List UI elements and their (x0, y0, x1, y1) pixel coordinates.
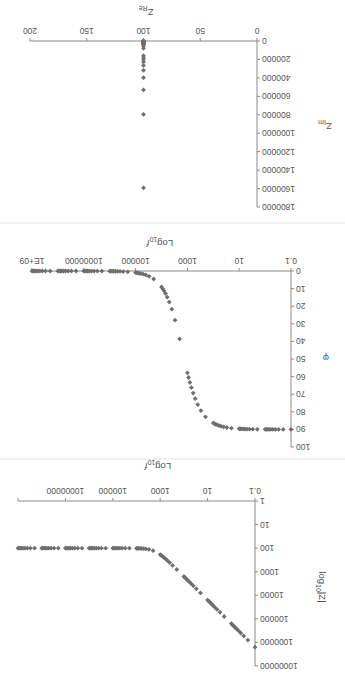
y-tick-label: 1000 (260, 567, 279, 577)
data-point-marker (141, 88, 146, 93)
data-point-marker (32, 546, 37, 551)
y-tick-label: 100 (260, 543, 274, 553)
x-tick-label: 1E+09 (19, 256, 44, 266)
data-point-marker (141, 68, 146, 73)
data-point-marker (100, 269, 105, 274)
data-point-marker (241, 634, 246, 639)
x-tick-label: 100000 (121, 256, 150, 266)
data-point-marker (193, 396, 198, 401)
y-tick-label: 100 (296, 442, 310, 452)
x-tick-label: 10000000 (46, 486, 84, 496)
y-tick-label: 800000 (262, 110, 291, 120)
y-tick-label: 80 (296, 407, 306, 417)
data-point-marker (186, 375, 191, 380)
y-tick-label: 1 (260, 496, 265, 506)
data-point-marker (48, 269, 53, 274)
nyquist-chart: 0501001502000200000400000600000800000100… (23, 5, 332, 212)
data-point-marker (229, 426, 234, 431)
y-tick-label: 600000 (262, 91, 291, 101)
y-tick-label: 1000000 (260, 637, 293, 647)
y-tick-label: 30 (296, 319, 306, 329)
y-tick-label: 70 (296, 389, 306, 399)
nyquist-axes: 0501001502000200000400000600000800000100… (23, 26, 295, 212)
x-tick-label: 0.1 (285, 256, 297, 266)
y-tick-label: 10 (296, 284, 306, 294)
y-tick-label: 20 (296, 301, 306, 311)
x-tick-label: 10000000 (65, 256, 103, 266)
y-tick-label: 1600000 (262, 184, 295, 194)
magnitude-data-points (16, 546, 258, 650)
x-tick-label: 1000 (150, 486, 169, 496)
data-point-marker (127, 546, 132, 551)
y-tick-label: 1000000 (262, 128, 295, 138)
data-point-marker (203, 414, 208, 419)
magnitude-y-axis-label: log10|Z| (315, 571, 328, 602)
data-point-marker (141, 75, 146, 80)
y-tick-label: 200000 (262, 54, 291, 64)
y-tick-label: 90 (296, 424, 306, 434)
data-point-marker (255, 427, 260, 432)
x-tick-label: 150 (79, 26, 93, 36)
data-point-marker (170, 563, 175, 568)
data-point-marker (185, 370, 190, 375)
data-point-marker (151, 548, 156, 553)
data-point-marker (125, 269, 130, 274)
data-point-marker (281, 427, 286, 432)
y-tick-label: 1800000 (262, 202, 295, 212)
data-point-marker (188, 380, 193, 385)
data-point-marker (151, 277, 156, 282)
data-point-marker (218, 610, 223, 615)
phase-axes: 0.1101000100000100000001E+09010203040506… (19, 256, 310, 452)
magnitude-x-axis-label: Log10f (143, 459, 171, 472)
phase-y-axis-label: φ (323, 353, 329, 364)
y-tick-label: 10 (260, 520, 270, 530)
y-tick-label: 0 (296, 266, 301, 276)
y-tick-label: 10000 (260, 590, 284, 600)
data-point-marker (253, 645, 258, 650)
data-point-marker (198, 591, 203, 596)
data-point-marker (141, 112, 146, 117)
x-tick-label: 10 (234, 256, 244, 266)
data-point-marker (167, 300, 172, 305)
phase-chart: 0.1101000100000100000001E+09010203040506… (19, 236, 329, 452)
y-tick-label: 10000000 (260, 661, 298, 671)
data-point-marker (289, 427, 294, 432)
nyquist-x-axis-label: ZRe (139, 5, 154, 18)
data-point-marker (194, 586, 199, 591)
data-point-marker (189, 385, 194, 390)
nyquist-y-axis-label: ZIm (318, 119, 332, 132)
data-point-marker (173, 318, 178, 323)
x-tick-label: 200 (23, 26, 37, 36)
y-tick-label: 0 (262, 36, 267, 46)
magnitude-chart: 0.11010001000001000000011010010001000010… (16, 459, 328, 671)
figure-canvas: 0.11010001000001000000011010010001000010… (0, 0, 345, 699)
x-tick-label: 0 (254, 26, 259, 36)
data-point-marker (191, 391, 196, 396)
data-point-marker (245, 638, 250, 643)
x-tick-label: 50 (195, 26, 205, 36)
data-point-marker (177, 336, 182, 341)
y-tick-label: 100000 (260, 614, 289, 624)
x-tick-label: 1000 (178, 256, 197, 266)
data-point-marker (222, 614, 227, 619)
x-tick-label: 100 (136, 26, 150, 36)
y-tick-label: 400000 (262, 73, 291, 83)
y-tick-label: 1200000 (262, 147, 295, 157)
data-point-marker (56, 546, 61, 551)
magnitude-axes: 0.11010001000001000000011010010001000010… (18, 486, 298, 671)
rotated-figure: 0.11010001000001000000011010010001000010… (0, 0, 345, 699)
data-point-marker (80, 546, 85, 551)
nyquist-data-points (141, 39, 146, 190)
y-tick-label: 1400000 (262, 165, 295, 175)
data-point-marker (103, 546, 108, 551)
data-point-marker (195, 402, 200, 407)
data-point-marker (74, 269, 79, 274)
x-tick-label: 0.1 (249, 486, 261, 496)
phase-x-axis-label: Log10f (145, 236, 173, 249)
y-tick-label: 50 (296, 354, 306, 364)
data-point-marker (141, 185, 146, 190)
data-point-marker (174, 567, 179, 572)
data-point-marker (169, 307, 174, 312)
x-tick-label: 10 (203, 486, 213, 496)
phase-data-points (30, 269, 294, 432)
